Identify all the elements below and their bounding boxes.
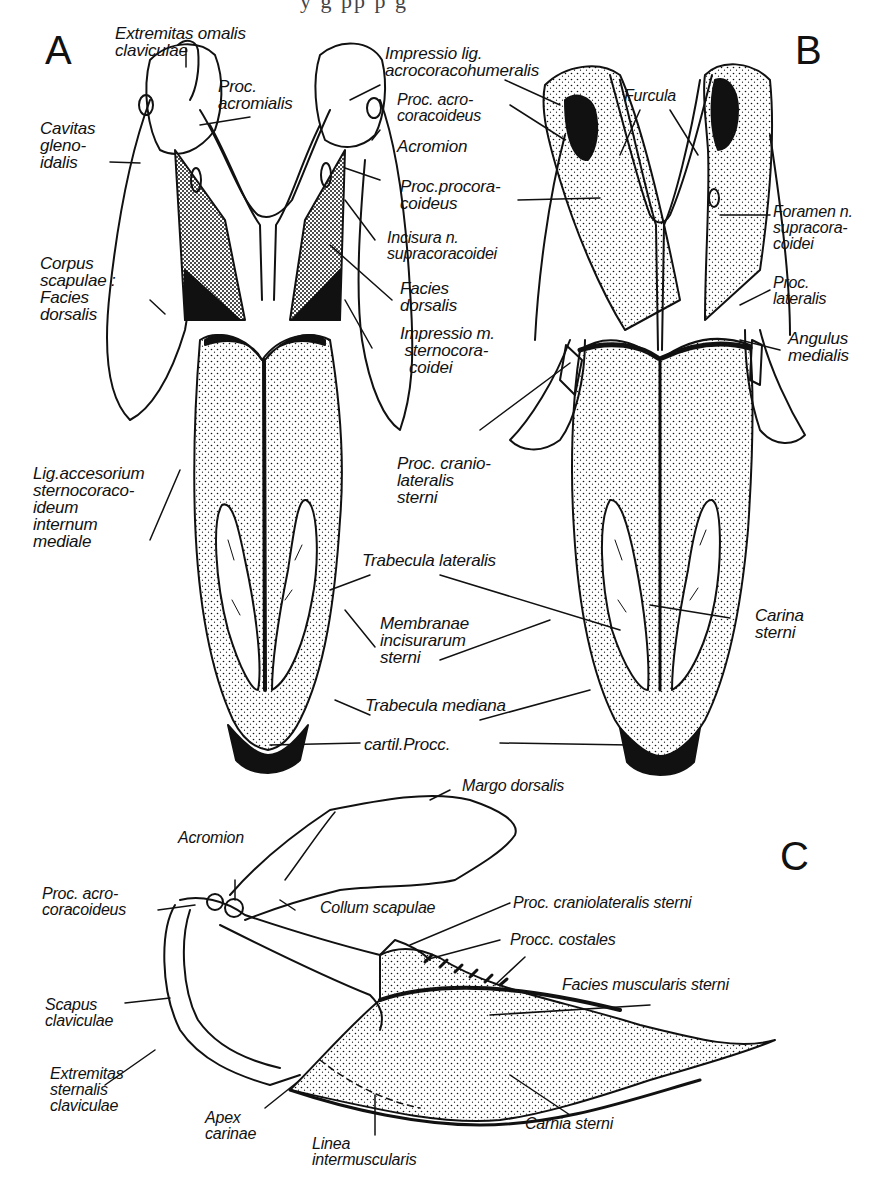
panel-c-drawing	[164, 796, 775, 1125]
label-impressio-lig-acrocoracohumeralis: Impressio lig. acrocoracohumeralis	[385, 45, 539, 79]
label-cartil-procc: cartil.Procc.	[364, 736, 450, 753]
label-proc-acrocoracoideus-c: Proc. acro- coracoideus	[42, 886, 126, 918]
label-lig-accesorium: Lig.accesorium sternocoraco- ideum inter…	[33, 465, 145, 550]
label-proc-procoracoideus: Proc.procora- coideus	[400, 178, 500, 212]
label-trabecula-lateralis: Trabecula lateralis	[362, 552, 496, 569]
label-membranae-incisurarum: Membranae incisurarum sterni	[380, 615, 469, 666]
label-proc-craniolateralis-sterni: Proc. cranio- lateralis sterni	[397, 455, 491, 506]
label-linea-intermuscularis: Linea intermuscularis	[312, 1136, 417, 1168]
label-cavitas-glenoidalis: Cavitas gleno- idalis	[40, 120, 95, 171]
label-extremitas-omalis-claviculae: Extremitas omalis claviculae	[115, 25, 246, 59]
label-procc-costales: Procc. costales	[510, 932, 616, 948]
label-proc-craniolateralis-sterni-c: Proc. craniolateralis sterni	[513, 895, 691, 911]
label-scapus-claviculae: Scapus claviculae	[45, 997, 113, 1029]
label-facies-muscularis-sterni: Facies muscularis sterni	[562, 977, 729, 993]
label-collum-scapulae: Collum scapulae	[320, 900, 435, 916]
label-margo-dorsalis: Margo dorsalis	[462, 778, 564, 794]
label-apex-carinae: Apex carinae	[205, 1110, 256, 1142]
panel-a-drawing	[107, 41, 412, 773]
label-extremitas-sternalis-claviculae: Extremitas sternalis claviculae	[50, 1066, 124, 1114]
panel-label-b: B	[795, 30, 822, 70]
panel-b-drawing	[510, 64, 805, 775]
panel-label-a: A	[45, 30, 72, 70]
label-furcula: Furcula	[624, 88, 676, 104]
label-incisura-supracoracoidei: Incisura n. supracoracoidei	[387, 230, 497, 262]
label-angulus-medialis: Angulus medialis	[788, 330, 849, 364]
label-acromion: Acromion	[397, 138, 467, 155]
label-foramen-supracoracoidei: Foramen n. supracora- coidei	[773, 204, 853, 252]
panel-label-c: C	[780, 836, 809, 876]
label-proc-acrocoracoideus: Proc. acro- coracoideus	[397, 92, 481, 124]
label-carina-sterni: Carina sterni	[755, 607, 804, 641]
label-corpus-scapulae: Corpus scapulae : Facies dorsalis	[40, 255, 116, 323]
label-carnia-sterni: Carnia sterni	[525, 1116, 613, 1132]
label-proc-acromialis: Proc. acromialis	[218, 78, 293, 112]
label-impressio-m-sternocoracoidei: Impressio m. sternocora- coidei	[400, 325, 495, 376]
label-facies-dorsalis: Facies dorsalis	[400, 280, 457, 314]
label-acromion-c: Acromion	[178, 830, 244, 846]
label-trabecula-mediana: Trabecula mediana	[365, 697, 506, 714]
label-proc-lateralis: Proc. lateralis	[773, 275, 826, 307]
